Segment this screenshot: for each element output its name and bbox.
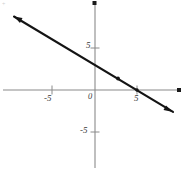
origin-label: 0: [88, 92, 92, 101]
data-point-marker-2: [135, 88, 138, 91]
coordinate-plane-figure: + 5 -5 -5 5 0: [0, 0, 184, 170]
y-axis-label-neg5: -5: [80, 126, 88, 135]
x-axis-label-5: 5: [134, 94, 139, 103]
x-axis-label-neg5: -5: [44, 94, 52, 103]
plotted-line: [14, 17, 173, 112]
plot-canvas: [0, 0, 184, 170]
y-axis-top-mark: [93, 1, 97, 5]
y-axis-label-5: 5: [86, 41, 91, 50]
data-point-marker-1: [116, 77, 120, 81]
x-axis-right-mark: [177, 88, 181, 92]
